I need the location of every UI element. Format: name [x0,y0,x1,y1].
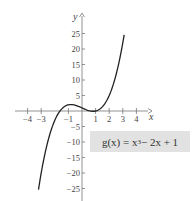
x-tick-label: 2 [107,114,111,124]
y-tick-label: 10 [72,75,81,85]
y-tick-label: 25 [72,29,81,39]
y-tick-label: 20 [72,44,81,54]
function-plot: −4−3−11234252015105−5−10−15−20−25 x y [0,0,195,201]
x-tick-label: −4 [23,114,33,124]
y-tick-label: 5 [76,91,80,101]
x-tick-label: 1 [93,114,97,124]
function-curve [38,35,124,190]
y-tick-label: −20 [67,168,80,178]
y-tick-label: −25 [67,184,80,194]
y-axis-label: y [72,11,78,22]
x-tick-label: −3 [37,114,46,124]
function-label-suffix: − 2x + 1 [141,136,178,148]
y-tick-label: 15 [72,60,81,70]
x-axis-label: x [148,111,154,122]
function-label-prefix: g(x) = x [102,136,138,148]
x-tick-label: 3 [121,114,125,124]
y-tick-label: −15 [67,153,80,163]
x-tick-label: 4 [134,114,139,124]
y-tick-label: −5 [71,122,80,132]
y-tick-label: −10 [67,137,80,147]
function-label-box: g(x) = x3 − 2x + 1 [90,131,190,152]
